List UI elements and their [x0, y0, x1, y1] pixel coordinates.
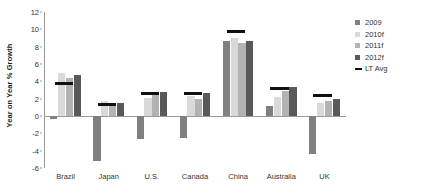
bar: [58, 73, 65, 116]
bar: [93, 116, 100, 161]
y-tick-label: 6: [35, 60, 39, 69]
y-axis-title-text: Year on Year % Growth: [5, 43, 14, 127]
legend-label: 2009: [365, 18, 382, 27]
bar: [160, 92, 167, 116]
bar-group: [266, 12, 297, 168]
x-tick-label: UK: [319, 172, 329, 181]
legend-swatch-icon: [355, 20, 360, 25]
y-tick-label: 8: [35, 42, 39, 51]
bar: [187, 96, 194, 116]
bar: [74, 75, 81, 116]
y-axis-title: Year on Year % Growth: [0, 0, 18, 170]
y-tick-label: -2: [32, 129, 39, 138]
bar-group: [93, 12, 124, 168]
legend-item[interactable]: 2010f: [355, 29, 435, 41]
x-tick-label: Brazil: [56, 172, 75, 181]
legend-item[interactable]: 2011f: [355, 40, 435, 52]
bar-group: [180, 12, 211, 168]
plot-area: [44, 12, 346, 168]
y-tick-mark: [40, 46, 43, 47]
bar: [223, 41, 230, 116]
bar: [144, 98, 151, 116]
legend-label: 2012f: [365, 53, 384, 62]
y-tick-label: 12: [31, 8, 39, 17]
bar-group: [309, 12, 340, 168]
bar-chart: Year on Year % Growth 121086420-2-4-6 Br…: [0, 0, 438, 195]
bar: [246, 41, 253, 116]
bar: [282, 91, 289, 116]
x-tick-label: Australia: [267, 172, 296, 181]
bar: [137, 116, 144, 139]
x-axis-tick-labels: BrazilJapanU.S.CanadaChinaAustraliaUK: [44, 172, 346, 188]
y-tick-label: 2: [35, 94, 39, 103]
x-tick-label: Canada: [182, 172, 208, 181]
bar: [274, 97, 281, 116]
bar: [325, 101, 332, 116]
lt-avg-marker: [313, 94, 331, 97]
legend-swatch-icon: [355, 32, 360, 37]
bar: [266, 106, 273, 116]
lt-avg-marker: [98, 103, 116, 106]
legend-swatch-icon: [355, 43, 360, 48]
bar: [203, 93, 210, 116]
y-axis-line: [44, 12, 45, 168]
legend-swatch-icon: [355, 55, 360, 60]
bar-group: [50, 12, 81, 168]
y-tick-label: -4: [32, 146, 39, 155]
y-tick-label: 0: [35, 112, 39, 121]
x-tick-label: Japan: [98, 172, 118, 181]
y-axis-tick-labels: 121086420-2-4-6: [20, 12, 42, 168]
y-tick-label: 4: [35, 77, 39, 86]
bar: [289, 87, 296, 116]
bar: [309, 116, 316, 154]
legend: 20092010f2011f2012fLT Avg: [355, 17, 435, 75]
x-tick-label: China: [228, 172, 248, 181]
y-tick-mark: [40, 98, 43, 99]
y-tick-mark: [40, 81, 43, 82]
legend-label: 2011f: [365, 41, 383, 50]
lt-avg-marker: [55, 82, 73, 85]
legend-line-icon: [355, 68, 362, 70]
bar: [333, 99, 340, 116]
y-tick-mark: [40, 64, 43, 65]
bar: [231, 38, 238, 116]
bar-group: [223, 12, 254, 168]
bar-group: [137, 12, 168, 168]
legend-item[interactable]: 2012f: [355, 52, 435, 64]
y-tick-mark: [40, 168, 43, 169]
bar: [50, 116, 57, 119]
legend-item[interactable]: 2009: [355, 17, 435, 29]
lt-avg-marker: [141, 92, 159, 95]
x-tick-label: U.S.: [145, 172, 160, 181]
legend-item-lt-avg[interactable]: LT Avg: [355, 63, 435, 75]
bar: [152, 95, 159, 116]
bar: [238, 43, 245, 116]
y-tick-mark: [40, 12, 43, 13]
legend-label: LT Avg: [365, 64, 388, 73]
y-tick-mark: [40, 150, 43, 151]
legend-label: 2010f: [365, 30, 384, 39]
bar: [180, 116, 187, 138]
bar: [195, 99, 202, 116]
bar: [317, 103, 324, 116]
bar: [117, 103, 124, 116]
lt-avg-marker: [270, 87, 288, 90]
y-tick-label: -6: [32, 164, 39, 173]
lt-avg-marker: [184, 92, 202, 95]
y-tick-mark: [40, 29, 43, 30]
y-tick-mark: [40, 133, 43, 134]
y-tick-label: 10: [31, 25, 39, 34]
y-tick-mark: [40, 116, 43, 117]
lt-avg-marker: [227, 30, 245, 33]
